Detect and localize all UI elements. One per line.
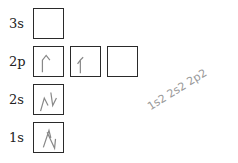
- orbital-box-2p-3: [107, 46, 138, 77]
- handwritten-configuration: 1s2 2s2 2p2: [145, 66, 209, 113]
- up-arrow-icon: [71, 47, 100, 76]
- up-arrow-icon: [34, 47, 63, 76]
- up-down-arrow-icon: [34, 123, 63, 152]
- orbital-box-3s: [33, 8, 64, 39]
- orbital-box-2p-1: [33, 46, 64, 77]
- label-3s: 3s: [9, 16, 24, 31]
- orbital-box-2s: [33, 84, 64, 115]
- label-2s: 2s: [9, 92, 24, 107]
- orbital-box-1s: [33, 122, 64, 153]
- orbital-box-2p-2: [70, 46, 101, 77]
- up-down-arrow-icon: [34, 85, 63, 114]
- label-2p: 2p: [9, 54, 26, 69]
- label-1s: 1s: [9, 130, 24, 145]
